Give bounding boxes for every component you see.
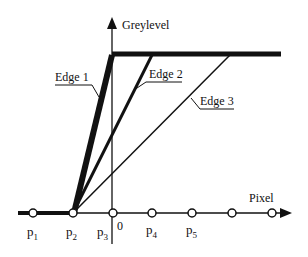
y-axis-label: Greylevel <box>122 18 170 32</box>
pixel-marker-7 <box>268 209 276 217</box>
y-axis-arrow-icon <box>107 17 117 29</box>
x-axis-arrow-icon <box>280 208 292 218</box>
pixel-marker-p5 <box>188 209 196 217</box>
x-axis-label: Pixel <box>249 191 274 205</box>
edge-1-label: Edge 1 <box>55 70 89 84</box>
pixel-label-p2: p2 <box>66 224 77 242</box>
pixel-label-p4: p4 <box>146 222 158 240</box>
pixel-label-p5: p5 <box>186 222 198 240</box>
edge-3-label: Edge 3 <box>200 94 234 108</box>
pixel-marker-p2 <box>69 209 77 217</box>
pixel-marker-6 <box>228 209 236 217</box>
pixel-marker-p3 <box>109 209 117 217</box>
pixel-marker-p1 <box>29 209 37 217</box>
edge-profile-diagram: Edge 1 Edge 2 Edge 3 Greylevel Pixel 0 p… <box>0 0 308 257</box>
pixel-label-p1: p1 <box>27 224 38 242</box>
edge-2-leader <box>134 82 182 90</box>
pixel-marker-p4 <box>148 209 156 217</box>
origin-label: 0 <box>117 219 123 233</box>
pixel-label-p3: p3 <box>97 224 109 242</box>
edge-2-label: Edge 2 <box>149 67 183 81</box>
edge-1-leader <box>55 85 99 97</box>
